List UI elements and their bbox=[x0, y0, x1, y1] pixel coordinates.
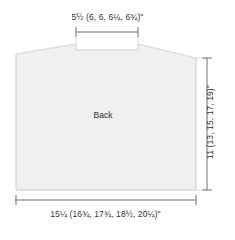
piece-label-back: Back bbox=[0, 110, 206, 120]
garment-schematic-back: 5½ (6, 6, 6¼, 6¾)" 15¼ (16¾, 17¾, 18½, 2… bbox=[0, 0, 235, 240]
schematic-drawing bbox=[0, 0, 235, 240]
top-dimension-label: 5½ (6, 6, 6¼, 6¾)" bbox=[0, 12, 215, 22]
bottom-dimension-label: 15¼ (16¾, 17¾, 18½, 20¼)" bbox=[0, 209, 211, 219]
side-dimension-label: 11 (13, 15, 17, 19)" bbox=[205, 62, 215, 182]
